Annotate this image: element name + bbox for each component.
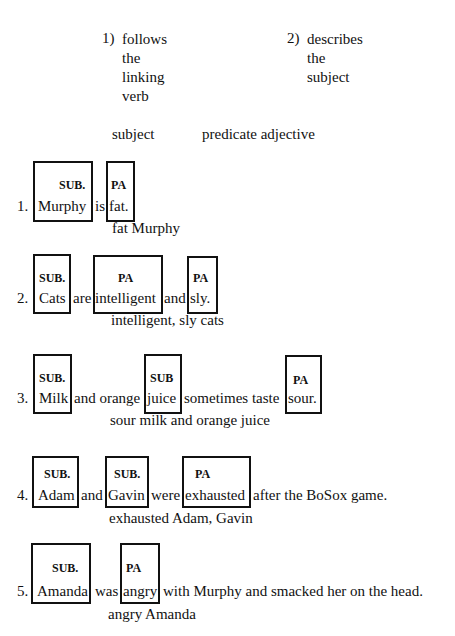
pa-label: PA bbox=[193, 271, 208, 286]
sub-label: SUB. bbox=[44, 467, 70, 482]
word: sour. bbox=[288, 390, 317, 407]
word: angry bbox=[123, 583, 157, 600]
word: and orange bbox=[74, 390, 140, 407]
word: Milk bbox=[39, 390, 68, 407]
word: was bbox=[95, 583, 118, 600]
sentence-number: 2. bbox=[17, 290, 28, 307]
sub-label: SUB. bbox=[39, 271, 65, 286]
point-2-line: describes bbox=[307, 30, 363, 49]
pa-label: PA bbox=[111, 178, 126, 193]
point-1-line: linking bbox=[122, 68, 167, 87]
word: after the BoSox game. bbox=[253, 487, 387, 504]
word: intelligent bbox=[95, 290, 156, 307]
word: were bbox=[151, 487, 180, 504]
sub-label: SUB. bbox=[52, 561, 78, 576]
sub-label: SUB bbox=[150, 371, 173, 386]
word: fat. bbox=[109, 198, 129, 215]
word: sometimes taste bbox=[184, 390, 279, 407]
predicate-adjective-label: predicate adjective bbox=[202, 126, 315, 143]
word: Amanda bbox=[37, 583, 88, 600]
point-2-line: the bbox=[307, 49, 363, 68]
word: with Murphy and smacked her on the head. bbox=[163, 583, 423, 600]
sentence-number: 1. bbox=[17, 198, 28, 215]
word: Murphy bbox=[38, 198, 86, 215]
sub-label: SUB. bbox=[39, 371, 65, 386]
word: Gavin bbox=[108, 487, 145, 504]
answer: angry Amanda bbox=[108, 606, 196, 623]
word: and bbox=[164, 290, 186, 307]
word: Cats bbox=[39, 290, 66, 307]
point-1-line: verb bbox=[122, 87, 167, 106]
sub-label: SUB. bbox=[114, 467, 140, 482]
sentence-number: 3. bbox=[17, 390, 28, 407]
pa-label: PA bbox=[118, 271, 133, 286]
word: Adam bbox=[38, 487, 75, 504]
word: is bbox=[95, 198, 105, 215]
point-1-number: 1) bbox=[102, 30, 115, 47]
pa-label: PA bbox=[293, 373, 308, 388]
pa-label: PA bbox=[126, 561, 141, 576]
point-1-line: the bbox=[122, 49, 167, 68]
answer: intelligent, sly cats bbox=[111, 312, 224, 329]
word: are bbox=[73, 290, 91, 307]
word: exhausted bbox=[185, 487, 245, 504]
point-2-number: 2) bbox=[287, 30, 300, 47]
answer: sour milk and orange juice bbox=[110, 412, 270, 429]
subject-label: subject bbox=[112, 126, 155, 143]
sentence-number: 4. bbox=[17, 487, 28, 504]
sentence-number: 5. bbox=[17, 583, 28, 600]
word: juice bbox=[147, 390, 176, 407]
sub-label: SUB. bbox=[59, 178, 85, 193]
answer: fat Murphy bbox=[112, 220, 180, 237]
word: sly. bbox=[190, 290, 210, 307]
point-1-line: follows bbox=[122, 30, 167, 49]
point-2-line: subject bbox=[307, 68, 363, 87]
answer: exhausted Adam, Gavin bbox=[109, 510, 253, 527]
pa-label: PA bbox=[195, 467, 210, 482]
word: and bbox=[81, 487, 103, 504]
